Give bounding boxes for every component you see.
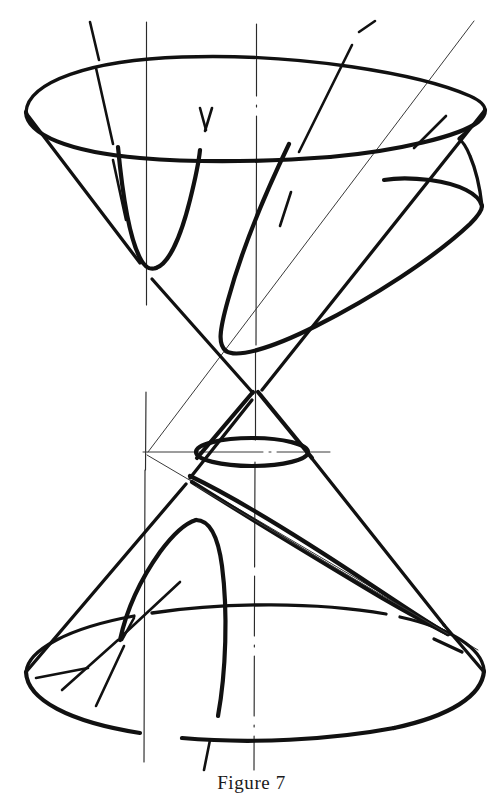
ruling-line-l1 xyxy=(62,640,118,690)
conic-sections-diagram xyxy=(0,0,503,810)
ruling-line-u1 xyxy=(90,22,99,60)
tilted-ellipse-top-curve xyxy=(384,179,482,207)
figure-root: Figure 7 xyxy=(0,0,503,810)
tilted-ellipse-bottom-curve xyxy=(226,206,482,353)
lower-base-back-arc-left xyxy=(26,616,134,672)
upper-left-parabola-section xyxy=(118,108,212,269)
lower-ellipse-axis-hairline xyxy=(196,486,448,634)
lower-cone xyxy=(26,400,484,741)
lower-ellipse-top-edge xyxy=(190,476,448,634)
upper-cone-left-slant-lower xyxy=(152,279,253,393)
lower-base-front-arc-mid xyxy=(182,728,394,741)
lower-base-back-arc-mid xyxy=(152,605,386,614)
lower-cone-right-slant xyxy=(310,456,444,625)
oblique-construction-line-upper xyxy=(148,21,474,452)
lower-base-front-arc-right xyxy=(394,671,484,728)
lower-cone-ruling-lines xyxy=(36,582,180,706)
lower-base-front-arc-left xyxy=(26,672,140,733)
tilted-ellipse-upper-tip xyxy=(459,139,482,206)
ruling-line-u7 xyxy=(414,116,446,148)
ruling-line-u4 xyxy=(200,108,206,130)
ruling-line-u6 xyxy=(359,21,375,32)
tilted-ellipse-left-edge xyxy=(221,144,289,351)
upper-rim-back-arc xyxy=(26,57,485,112)
ruling-line-u2 xyxy=(96,68,113,144)
ruling-line-u9 xyxy=(280,192,291,226)
upper-cone-ruling-lines xyxy=(90,21,482,226)
apex-left-down xyxy=(197,392,253,458)
upper-parabola-right-branch xyxy=(156,150,200,268)
vertical-axis-left-mid xyxy=(146,392,147,470)
vertical-axis-center-upper2 xyxy=(256,150,257,345)
figure-caption: Figure 7 xyxy=(0,772,503,794)
upper-tilted-ellipse-section xyxy=(221,139,482,353)
ruling-line-u8 xyxy=(459,118,482,138)
lower-tilted-ellipse-section xyxy=(190,476,462,652)
lower-parabola-tail xyxy=(204,740,210,770)
lower-parabola-right-branch xyxy=(196,520,225,716)
upper-rim-front-arc-right xyxy=(330,110,485,157)
